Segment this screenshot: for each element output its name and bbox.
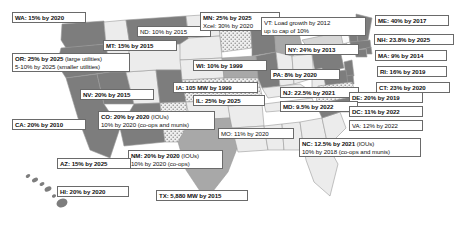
state-label-line1: NY: 24% by 2013: [288, 46, 356, 53]
state-label-line2: 10% by 2020 (co-ops and munis): [101, 121, 212, 129]
state-label-note1: (IOUs): [180, 152, 199, 159]
state-label-note2: (smaller utilities): [55, 63, 100, 70]
state-label-line1: IL: 25% by 2025: [196, 97, 262, 104]
state-label-line1: VA: 12% by 2022: [352, 122, 420, 129]
state-label-dc: DC: 11% by 2022: [349, 106, 423, 117]
state-label-note1: (IOUs): [149, 113, 168, 120]
state-label-co: CO: 20% by 2020 (IOUs)10% by 2020 (co-op…: [98, 111, 215, 130]
state-label-line1: CT: 23% by 2020: [379, 84, 447, 91]
state-label-pa: PA: 8% by 2020: [270, 69, 340, 80]
state-label-line1: IA: 105 MW by 1999: [176, 84, 255, 91]
state-label-nm: NM: 20% by 2020 (IOUs)10% by 2020 (co-op…: [128, 150, 223, 169]
state-wa: [61, 21, 106, 48]
state-label-md: MD: 9.5% by 2022: [280, 101, 358, 112]
state-label-va: VA: 12% by 2022: [349, 120, 423, 131]
state-label-line1: AZ: 15% by 2025: [60, 160, 128, 167]
state-label-mt: MT: 15% by 2015: [103, 40, 177, 51]
state-label-note2: (co-ops and munis): [136, 121, 189, 128]
state-label-line1: MO: 11% by 2020: [221, 130, 291, 137]
state-label-note2: (co-ops): [166, 160, 190, 167]
state-label-line1: RI: 16% by 2019: [380, 68, 444, 75]
state-label-nv: NV: 20% by 2015: [80, 89, 154, 100]
state-label-line1: DE: 20% by 2019: [352, 94, 420, 101]
state-ri: [366, 47, 372, 54]
state-label-line1: NM: 20% by 2020 (IOUs): [131, 152, 220, 160]
state-label-tx: TX: 5,880 MW by 2015: [156, 190, 248, 201]
state-label-line1: OR: 25% by 2025 (large utilities): [15, 55, 127, 63]
state-label-wa: WA: 15% by 2020: [12, 12, 86, 23]
state-label-note2: (co-ops and munis): [337, 148, 390, 155]
state-label-nj: NJ: 22.5% by 2021: [280, 87, 359, 98]
state-label-wi: WI: 10% by 1999: [193, 60, 267, 71]
state-label-line1: WI: 10% by 1999: [196, 62, 264, 69]
state-label-line1: DC: 11% by 2022: [352, 108, 420, 115]
state-label-line1: MT: 15% by 2015: [106, 42, 174, 49]
state-label-line2: up to cap of 10%: [264, 27, 363, 35]
state-label-az: AZ: 15% by 2025: [57, 158, 131, 169]
state-label-line1: NV: 20% by 2015: [83, 91, 151, 98]
state-label-nh: NH: 23.8% by 2025: [374, 34, 454, 45]
state-label-de: DE: 20% by 2019: [349, 92, 423, 103]
state-sd: [180, 36, 222, 60]
state-label-line1: WA: 15% by 2020: [15, 14, 83, 21]
state-label-nc: NC: 12.5% by 2021 (IOUs)10% by 2018 (co-…: [299, 138, 421, 157]
state-label-line1: CO: 20% by 2020 (IOUs): [101, 113, 212, 121]
state-label-line1: VT: Load growth by 2012: [264, 19, 363, 27]
state-ar: [228, 104, 264, 128]
state-label-line2: 5-10% by 2025 (smaller utilities): [15, 63, 127, 71]
state-label-line2: 10% by 2018 (co-ops and munis): [302, 148, 418, 156]
state-label-ny: NY: 24% by 2013: [285, 44, 359, 55]
state-label-line1: MA: 9% by 2014: [378, 52, 444, 59]
state-label-line1: MD: 9.5% by 2022: [283, 103, 355, 110]
state-label-line1: HI: 20% by 2020: [60, 188, 126, 195]
state-label-line2: 10% by 2020 (co-ops): [131, 160, 220, 168]
state-label-or: OR: 25% by 2025 (large utilities)5-10% b…: [12, 53, 130, 72]
state-label-ia: IA: 105 MW by 1999: [173, 82, 258, 93]
state-label-mo: MO: 11% by 2020: [218, 128, 294, 139]
state-label-vt: VT: Load growth by 2012up to cap of 10%: [261, 17, 366, 36]
state-label-ca: CA: 20% by 2010: [12, 119, 86, 130]
state-label-ri: RI: 16% by 2019: [377, 66, 447, 77]
state-label-line1: TX: 5,880 MW by 2015: [159, 192, 245, 199]
state-label-note1: (large utilities): [63, 55, 102, 62]
state-label-il: IL: 25% by 2025: [193, 95, 265, 106]
state-label-line1: ME: 40% by 2017: [378, 17, 446, 24]
state-label-line1: NC: 12.5% by 2021 (IOUs): [302, 140, 418, 148]
state-label-line1: NH: 23.8% by 2025: [377, 36, 451, 43]
state-label-line1: NJ: 22.5% by 2021: [283, 89, 356, 96]
state-label-note1: (IOUs): [355, 140, 374, 147]
state-label-line1: CA: 20% by 2010: [15, 121, 83, 128]
state-label-line1: ND: 10% by 2015: [140, 28, 208, 35]
state-label-hi: HI: 20% by 2020: [57, 186, 129, 197]
state-label-ma: MA: 9% by 2014: [375, 50, 447, 61]
state-label-me: ME: 40% by 2017: [375, 15, 449, 26]
state-label-line1: PA: 8% by 2020: [273, 71, 337, 78]
